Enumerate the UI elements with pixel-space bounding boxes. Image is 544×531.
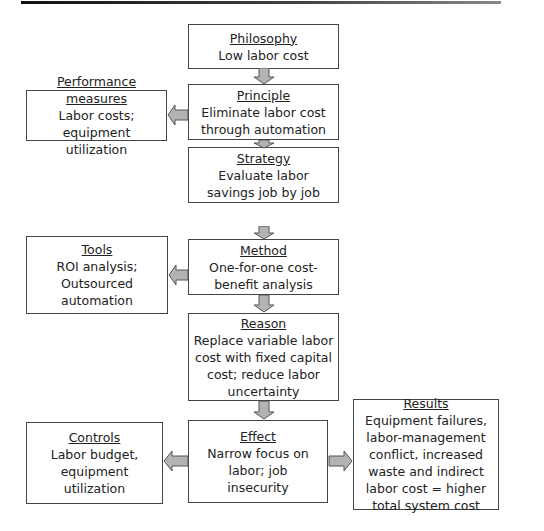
effect-box: Effect Narrow focus on labor; job insecu… [188, 420, 328, 503]
strategy-title: Strategy [237, 150, 291, 167]
results-title: Results [403, 395, 448, 412]
philosophy-body: Low labor cost [218, 47, 308, 64]
performance-body: Labor costs; equipment utilization [30, 107, 163, 158]
controls-title: Controls [69, 429, 121, 446]
effect-body: Narrow focus on labor; job insecurity [201, 445, 316, 496]
controls-box: Controls Labor budget, equipment utiliza… [26, 422, 163, 504]
performance-measures-box: Performance measures Labor costs; equipm… [26, 90, 167, 141]
method-title: Method [240, 242, 287, 259]
strategy-body: Evaluate labor savings job by job [201, 167, 326, 201]
arrow-left-icon [167, 104, 189, 126]
tools-box: Tools ROI analysis; Outsourced automatio… [26, 236, 168, 314]
method-box: Method One-for-one cost-benefit analysis [188, 239, 339, 295]
tools-title: Tools [82, 241, 113, 258]
reason-box: Reason Replace variable labor cost with … [188, 313, 339, 401]
arrow-down-icon [253, 68, 275, 85]
arrow-down-icon [253, 401, 275, 420]
reason-title: Reason [241, 315, 287, 332]
principle-title: Principle [237, 87, 290, 104]
arrow-down-icon [253, 140, 275, 149]
philosophy-box: Philosophy Low labor cost [188, 24, 339, 69]
arrow-down-icon [253, 226, 275, 240]
arrow-right-icon [328, 450, 353, 472]
principle-body: Eliminate labor cost through automation [194, 104, 334, 138]
results-box: Results Equipment failures, labor-manage… [353, 399, 499, 510]
results-body: Equipment failures, labor-management con… [354, 412, 499, 514]
method-body: One-for-one cost-benefit analysis [204, 259, 324, 293]
strategy-box: Strategy Evaluate labor savings job by j… [188, 147, 339, 203]
performance-title: Performance measures [30, 73, 163, 107]
philosophy-title: Philosophy [230, 30, 297, 47]
tools-body: ROI analysis; Outsourced automation [52, 258, 142, 309]
controls-body: Labor budget, equipment utilization [30, 446, 160, 497]
arrow-left-icon [163, 450, 189, 472]
principle-box: Principle Eliminate labor cost through a… [188, 84, 339, 140]
top-rule [21, 1, 501, 4]
effect-title: Effect [240, 428, 276, 445]
arrow-left-icon [168, 264, 189, 286]
reason-body: Replace variable labor cost with fixed c… [190, 332, 338, 400]
arrow-down-icon [253, 295, 275, 313]
